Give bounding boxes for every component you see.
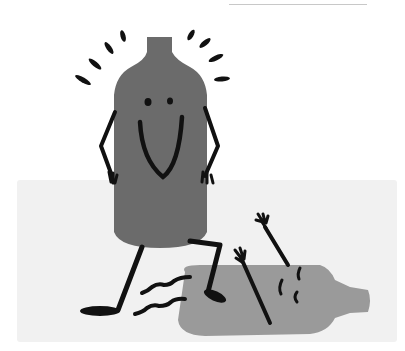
right-eye-icon (167, 98, 173, 105)
illustration-canvas (0, 0, 405, 351)
bottles-illustration (0, 0, 405, 351)
left-eye-icon (145, 98, 152, 106)
